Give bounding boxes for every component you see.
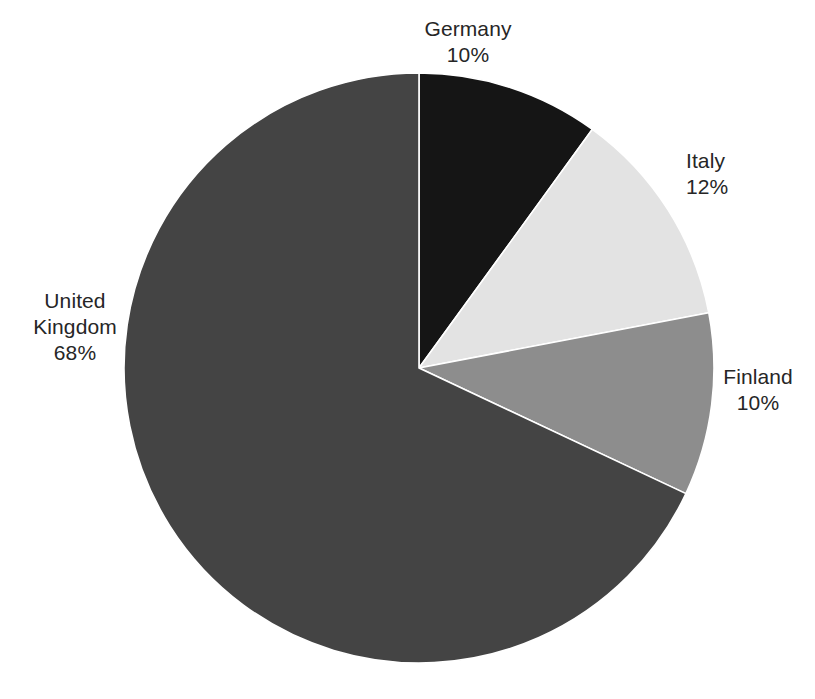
slice-label-united-kingdom: United Kingdom 68% xyxy=(8,288,142,366)
slice-label-finland: Finland 10% xyxy=(706,364,810,416)
slice-label-uk-name-line1: United xyxy=(8,288,142,314)
slice-label-italy-value: 12% xyxy=(686,174,806,200)
pie-chart: Germany 10% Italy 12% Finland 10% United… xyxy=(0,0,815,699)
slice-label-finland-name: Finland xyxy=(706,364,810,390)
slice-label-uk-value: 68% xyxy=(8,340,142,366)
slice-label-finland-value: 10% xyxy=(706,390,810,416)
slice-label-italy: Italy 12% xyxy=(686,148,806,200)
slice-label-uk-name-line2: Kingdom xyxy=(8,314,142,340)
slice-label-italy-name: Italy xyxy=(686,148,806,174)
slice-label-germany: Germany 10% xyxy=(388,16,548,68)
slice-label-germany-name: Germany xyxy=(388,16,548,42)
pie-slice-group xyxy=(124,73,714,663)
slice-label-germany-value: 10% xyxy=(388,42,548,68)
